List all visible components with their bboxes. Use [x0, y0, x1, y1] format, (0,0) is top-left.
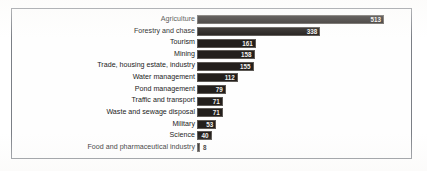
bar-value-label: 71	[197, 108, 223, 117]
bar-value-label: 71	[197, 97, 223, 106]
bar-category-label: Mining	[174, 49, 195, 61]
bar-row: Food and pharmaceutical industry8	[12, 142, 411, 154]
bar-row: Traffic and transport71	[12, 95, 411, 107]
bar-category-label: Water management	[133, 72, 195, 84]
bar-category-label: Waste and sewage disposal	[106, 107, 195, 119]
bar-value-label: 112	[197, 73, 238, 82]
bar-category-label: Traffic and transport	[131, 95, 195, 107]
bar-category-label: Tourism	[170, 37, 195, 49]
bar-category-label: Forestry and chase	[134, 26, 195, 38]
bar-row: Mining158	[12, 49, 411, 61]
bar-category-label: Pond management	[135, 84, 195, 96]
bar-value-label: 40	[197, 131, 212, 140]
bar-row: Forestry and chase338	[12, 26, 411, 38]
bar-value-label: 338	[197, 27, 320, 36]
bar-category-label: Science	[170, 130, 195, 142]
bar-category-label: Military	[172, 119, 195, 131]
bar-chart-plot-area: Agriculture513Forestry and chase338Touri…	[12, 9, 411, 158]
bar-category-label: Trade, housing estate, industry	[97, 60, 195, 72]
bar-value-label: 79	[197, 85, 226, 94]
bar-row: Water management112	[12, 72, 411, 84]
bar-value-label: 158	[197, 50, 255, 59]
bar-value-label: 53	[197, 120, 216, 129]
bar-value-label: 161	[197, 39, 256, 48]
bar-row: Agriculture513	[12, 14, 411, 26]
bar-category-label: Agriculture	[161, 14, 195, 26]
bar-row: Trade, housing estate, industry155	[12, 60, 411, 72]
bar-row: Science40	[12, 130, 411, 142]
bar-row: Waste and sewage disposal71	[12, 107, 411, 119]
chart-frame: Agriculture513Forestry and chase338Touri…	[11, 8, 412, 159]
bar-value-label: 8	[203, 143, 207, 152]
bar-row: Tourism161	[12, 37, 411, 49]
bar-value-label: 513	[197, 15, 384, 24]
bar-row: Pond management79	[12, 84, 411, 96]
bar-row: Military53	[12, 119, 411, 131]
bar-value-label: 155	[197, 62, 254, 71]
bar[interactable]	[197, 143, 200, 152]
bar-category-label: Food and pharmaceutical industry	[88, 142, 196, 154]
